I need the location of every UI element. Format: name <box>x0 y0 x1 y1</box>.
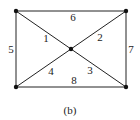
edge-label-3: 3 <box>87 65 93 76</box>
edge-label-4: 4 <box>48 66 54 77</box>
node-top-left <box>14 9 18 13</box>
edge-label-7: 7 <box>128 44 134 55</box>
node-top-right <box>124 9 128 13</box>
edge-label-2: 2 <box>97 32 103 43</box>
node-bottom-left <box>14 85 18 89</box>
node-bottom-right <box>124 85 128 89</box>
edge-label-5: 5 <box>8 44 14 55</box>
edge-label-1: 1 <box>43 33 49 44</box>
node-center <box>69 47 73 51</box>
edge-label-6: 6 <box>70 12 76 23</box>
edge-label-8: 8 <box>71 75 77 86</box>
figure-caption: (b) <box>64 105 77 116</box>
